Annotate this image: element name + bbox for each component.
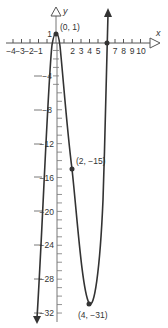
curve-arrow-up-icon (104, 8, 112, 17)
x-tick-label: 5 (96, 46, 101, 56)
y-tick-label: 1 (47, 29, 52, 39)
x-tick-label: 7 (113, 46, 118, 56)
point-0-1 (54, 32, 59, 37)
point-label-2-neg15: (2, −15) (76, 156, 106, 166)
x-tick-label: 9 (130, 46, 135, 56)
y-axis (56, 16, 57, 322)
y-axis-label: y (62, 6, 68, 16)
x-axis-arrow-icon (150, 38, 160, 48)
x-tick-label: 2 (70, 46, 75, 56)
x-tick-label: 3 (79, 46, 84, 56)
point-label-0-1: (0, 1) (60, 22, 80, 32)
function-graph: x −4 −3 −2 −1 2 3 4 5 7 8 9 10 y 1 −4 −8… (0, 0, 168, 328)
point-6-0 (105, 41, 110, 46)
curve-arrow-down-icon (33, 316, 41, 324)
x-tick-label: −1 (33, 46, 43, 56)
y-tick-labels: 1 −4 −8 −12 −16 −20 −24 −28 −32 (40, 29, 55, 318)
x-tick-label: 10 (136, 46, 146, 56)
x-axis-label: x (155, 28, 161, 38)
point-label-4-neg31: (4, −31) (78, 310, 108, 320)
x-axis (6, 39, 150, 43)
point-2-neg15 (70, 167, 75, 172)
y-ticks (53, 50, 62, 313)
function-curve (37, 14, 108, 318)
x-tick-labels: −4 −3 −2 −1 2 3 4 5 7 8 9 10 (6, 46, 146, 56)
y-tick-label: −4 (42, 71, 52, 81)
y-tick-label: −16 (40, 173, 55, 183)
x-tick-label: 8 (121, 46, 126, 56)
x-tick-label: 4 (87, 46, 92, 56)
y-axis-arrow-icon (51, 7, 61, 16)
point-4-neg31 (87, 302, 92, 307)
